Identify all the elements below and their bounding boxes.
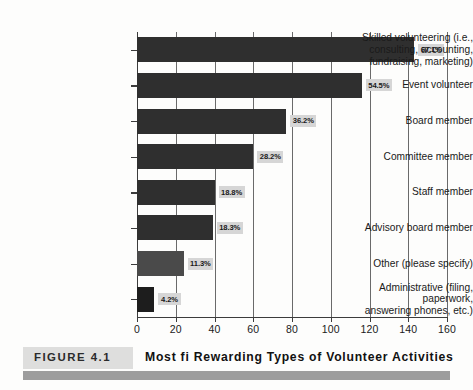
bar-value-label: 4.2% bbox=[158, 293, 180, 305]
category-label: Staff member bbox=[341, 186, 473, 198]
bar-chart: 020406080100120140160 67.1%54.5%36.2%28.… bbox=[0, 0, 473, 336]
figure-page: 020406080100120140160 67.1%54.5%36.2%28.… bbox=[0, 0, 473, 390]
x-tick bbox=[331, 317, 332, 322]
x-tick bbox=[253, 317, 254, 322]
x-tick bbox=[137, 317, 138, 322]
bar-value-label: 18.8% bbox=[219, 186, 245, 198]
bar bbox=[137, 109, 286, 134]
category-tick bbox=[131, 121, 137, 122]
bar-value-label: 11.3% bbox=[188, 258, 214, 270]
x-tick-label: 140 bbox=[399, 323, 417, 335]
category-tick bbox=[131, 85, 137, 86]
bar-value-label: 36.2% bbox=[290, 115, 316, 127]
x-tick bbox=[370, 317, 371, 322]
x-tick bbox=[215, 317, 216, 322]
figure-caption: FIGURE 4.1 Most fi Rewarding Types of Vo… bbox=[23, 347, 450, 380]
category-tick bbox=[131, 50, 137, 51]
category-label: Board member bbox=[341, 115, 473, 127]
caption-rule bbox=[23, 371, 450, 380]
x-tick bbox=[447, 317, 448, 322]
category-tick bbox=[131, 299, 137, 300]
gridline bbox=[447, 32, 448, 317]
bar-value-label: 18.3% bbox=[217, 222, 243, 234]
bar bbox=[137, 73, 362, 98]
bar bbox=[137, 144, 253, 169]
x-tick bbox=[292, 317, 293, 322]
category-label: Skilled volunteering (i.e., consulting, … bbox=[341, 32, 473, 67]
figure-number: FIGURE 4.1 bbox=[34, 351, 111, 363]
x-tick bbox=[408, 317, 409, 322]
x-tick bbox=[176, 317, 177, 322]
x-tick-label: 100 bbox=[322, 323, 340, 335]
x-tick-label: 0 bbox=[134, 323, 140, 335]
category-tick bbox=[131, 264, 137, 265]
x-tick-label: 120 bbox=[360, 323, 378, 335]
bar-value-label: 28.2% bbox=[257, 151, 283, 163]
bar bbox=[137, 180, 215, 205]
x-tick-label: 80 bbox=[286, 323, 298, 335]
x-tick-label: 60 bbox=[247, 323, 259, 335]
bar bbox=[137, 215, 213, 240]
x-tick-label: 160 bbox=[438, 323, 456, 335]
x-tick-label: 20 bbox=[170, 323, 182, 335]
figure-title: Most fi Rewarding Types of Volunteer Act… bbox=[145, 350, 454, 364]
category-label: Advisory board member bbox=[341, 222, 473, 234]
category-tick bbox=[131, 228, 137, 229]
x-tick-label: 40 bbox=[208, 323, 220, 335]
category-tick bbox=[131, 157, 137, 158]
category-label: Administrative (filing, paperwork, answe… bbox=[341, 282, 473, 317]
bar bbox=[137, 251, 184, 276]
category-label: Other (please specify) bbox=[341, 258, 473, 270]
category-tick bbox=[131, 192, 137, 193]
bar bbox=[137, 287, 154, 312]
category-label: Committee member bbox=[341, 151, 473, 163]
category-label: Event volunteer bbox=[341, 79, 473, 91]
